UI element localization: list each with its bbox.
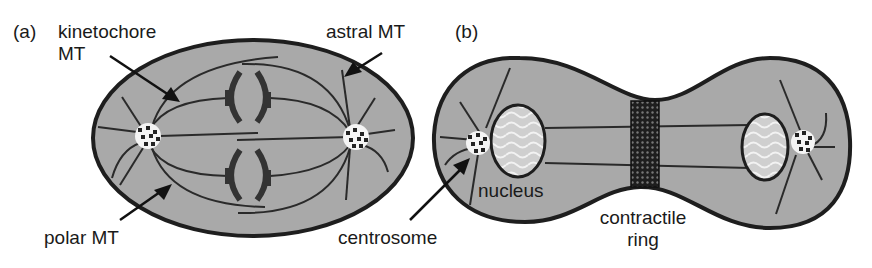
label-astral-mt: astral MT <box>326 22 405 42</box>
contractile-ring <box>631 101 659 187</box>
label-kinetochore-mt-line2: MT <box>58 44 85 64</box>
panel-b-tag: (b) <box>455 22 478 42</box>
nucleus-left <box>491 105 545 177</box>
label-contractile-ring-line2: ring <box>588 230 698 250</box>
nucleus-right <box>742 114 788 180</box>
centrosome-left-b <box>466 131 490 155</box>
centrosome-right-a <box>343 124 369 150</box>
panel-a-tag: (a) <box>13 22 36 42</box>
label-centrosome: centrosome <box>338 228 437 248</box>
panel-b-cell <box>434 58 850 228</box>
label-nucleus: nucleus <box>478 181 544 201</box>
label-kinetochore-mt-line1: kinetochore <box>58 22 156 42</box>
centrosome-right-b <box>791 130 815 154</box>
label-polar-mt: polar MT <box>44 228 119 248</box>
label-contractile-ring-line1: contractile <box>588 208 698 228</box>
centrosome-left-a <box>135 123 161 149</box>
